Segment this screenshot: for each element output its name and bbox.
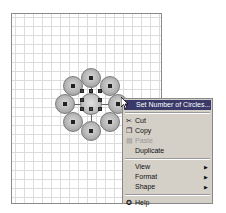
- menu-item-format[interactable]: Format▶: [123, 172, 212, 182]
- selection-handle[interactable]: [98, 89, 102, 93]
- selection-handle[interactable]: [89, 89, 93, 93]
- menu-separator: [125, 158, 210, 160]
- submenu-arrow-icon: ▶: [204, 172, 208, 182]
- outer-circle-w[interactable]: [55, 94, 75, 114]
- outer-circle-s[interactable]: [81, 121, 101, 141]
- outer-circle-nw[interactable]: [63, 76, 83, 96]
- handle[interactable]: [71, 120, 75, 124]
- menu-item-view[interactable]: View▶: [123, 162, 212, 172]
- context-menu: Set Number of Circles... ✂Cut ❐Copy ▤Pas…: [122, 98, 213, 204]
- menu-item-duplicate[interactable]: Duplicate: [123, 146, 212, 156]
- outer-circle-n[interactable]: [81, 68, 101, 88]
- scissors-icon: ✂: [125, 117, 133, 125]
- menu-item-cut[interactable]: ✂Cut: [123, 116, 212, 126]
- handle[interactable]: [89, 76, 93, 80]
- handle[interactable]: [108, 84, 112, 88]
- menu-separator: [125, 112, 210, 114]
- selection-handle[interactable]: [89, 107, 93, 111]
- menu-item-copy[interactable]: ❐Copy: [123, 126, 212, 136]
- copy-icon: ❐: [125, 127, 133, 135]
- outer-circle-sw[interactable]: [63, 112, 83, 132]
- help-icon: ✪: [125, 199, 133, 207]
- mouse-cursor-icon: [121, 97, 129, 109]
- submenu-arrow-icon: ▶: [204, 182, 208, 192]
- menu-item-paste[interactable]: ▤Paste: [123, 136, 212, 146]
- selection-handle[interactable]: [98, 107, 102, 111]
- selection-handle[interactable]: [80, 107, 84, 111]
- selection-handle[interactable]: [98, 98, 102, 102]
- menu-item-set-number-of-circles[interactable]: Set Number of Circles...: [124, 100, 211, 110]
- outer-circle-se[interactable]: [100, 112, 120, 132]
- handle[interactable]: [116, 102, 120, 106]
- submenu-arrow-icon: ▶: [204, 162, 208, 172]
- outer-circle-ne[interactable]: [100, 76, 120, 96]
- menu-item-shape[interactable]: Shape▶: [123, 182, 212, 192]
- handle[interactable]: [63, 102, 67, 106]
- handle[interactable]: [89, 129, 93, 133]
- handle[interactable]: [71, 84, 75, 88]
- menu-separator: [125, 194, 210, 196]
- handle[interactable]: [108, 120, 112, 124]
- center-circle[interactable]: [80, 93, 102, 115]
- selection-handle[interactable]: [80, 89, 84, 93]
- paste-icon: ▤: [125, 137, 133, 145]
- menu-item-help[interactable]: ✪Help: [123, 198, 212, 208]
- selection-handle[interactable]: [80, 98, 84, 102]
